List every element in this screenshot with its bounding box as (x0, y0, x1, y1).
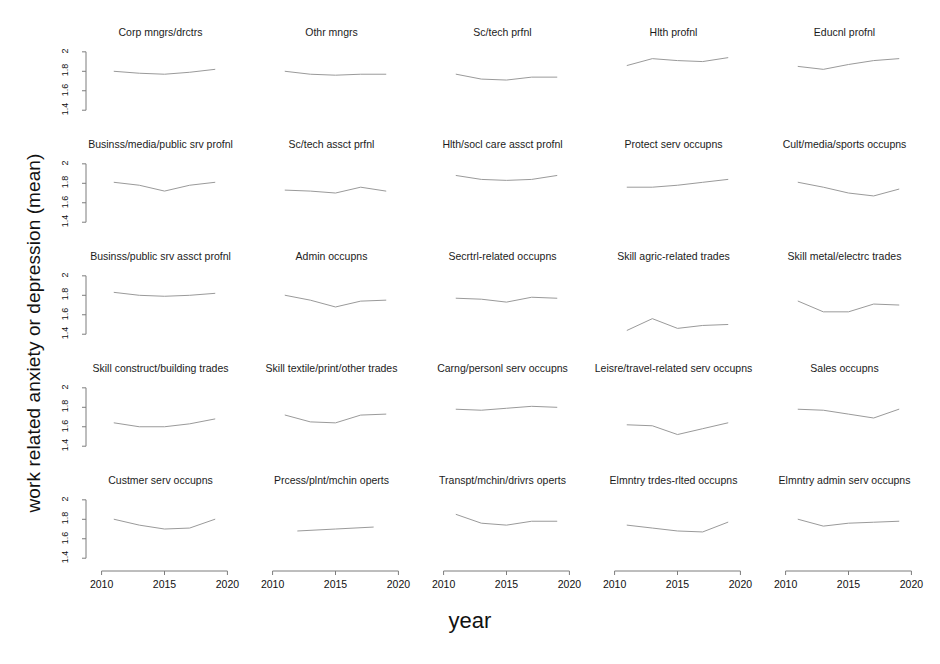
y-tick-label: 1.6 (60, 304, 70, 324)
panel-title: Sales occupns (759, 362, 930, 374)
panel-title: Custmer serv occupns (75, 474, 246, 486)
y-tick-label: 1.6 (60, 416, 70, 436)
panel-plot-area (588, 376, 759, 458)
panel-plot-area (246, 376, 417, 458)
data-line (627, 58, 728, 66)
chart-panel: Elmntry trdes-rlted occupns201020152020 (588, 474, 759, 586)
data-line (798, 519, 899, 526)
x-tick-label: 2015 (666, 578, 689, 590)
x-tick-label: 2020 (216, 578, 239, 590)
panel-title: Elmntry admin serv occupns (759, 474, 930, 486)
y-axis (82, 164, 86, 222)
y-tick-label: 1.4 (60, 211, 70, 231)
data-line (114, 69, 215, 74)
y-tick-label: 1.8 (60, 396, 70, 416)
y-tick-labels: 1.41.61.82 (59, 152, 73, 234)
x-tick-labels: 201020152020 (588, 578, 759, 594)
panel-plot-area (417, 264, 588, 346)
chart-panel: Educnl profnl (759, 26, 930, 138)
panel-plot-area (75, 152, 246, 234)
panel-title: Sc/tech prfnl (417, 26, 588, 38)
panel-plot-area (588, 40, 759, 122)
y-tick-label: 2 (60, 377, 70, 397)
data-line (285, 295, 386, 307)
chart-panel: Carng/personl serv occupns (417, 362, 588, 474)
data-line (627, 319, 728, 331)
x-axis-title: year (0, 608, 940, 634)
y-tick-label: 1.4 (60, 547, 70, 567)
y-tick-label: 1.4 (60, 435, 70, 455)
panel-title: Corp mngrs/drctrs (75, 26, 246, 38)
chart-panel: Skill metal/electrc trades (759, 250, 930, 362)
panel-grid: Corp mngrs/drctrs1.41.61.82Othr mngrsSc/… (75, 26, 930, 586)
chart-panel: Sales occupns (759, 362, 930, 474)
data-line (285, 414, 386, 423)
x-axis (273, 571, 399, 575)
data-line (456, 74, 557, 80)
chart-panel: Elmntry admin serv occupns201020152020 (759, 474, 930, 586)
chart-panel: Skill textile/print/other trades (246, 362, 417, 474)
panel-title: Leisre/travel-related serv occupns (588, 362, 759, 374)
panel-plot-area (759, 152, 930, 234)
y-tick-label: 1.8 (60, 60, 70, 80)
chart-panel: Sc/tech prfnl (417, 26, 588, 138)
data-line (114, 419, 215, 427)
chart-panel: Othr mngrs (246, 26, 417, 138)
panel-title: Skill agric-related trades (588, 250, 759, 262)
panel-title: Secrtrl-related occupns (417, 250, 588, 262)
data-line (798, 409, 899, 418)
chart-panel: Skill construct/building trades1.41.61.8… (75, 362, 246, 474)
x-tick-labels: 201020152020 (759, 578, 930, 594)
panel-title: Skill metal/electrc trades (759, 250, 930, 262)
data-line (798, 301, 899, 312)
data-line (114, 519, 215, 529)
panel-plot-area (417, 376, 588, 458)
x-axis (615, 571, 741, 575)
x-axis (444, 571, 570, 575)
y-tick-label: 2 (60, 489, 70, 509)
chart-panel: Corp mngrs/drctrs1.41.61.82 (75, 26, 246, 138)
y-tick-labels: 1.41.61.82 (59, 264, 73, 346)
panel-plot-area (246, 152, 417, 234)
y-axis (82, 276, 86, 334)
y-tick-label: 1.8 (60, 508, 70, 528)
chart-panel: Transpt/mchin/drivrs operts201020152020 (417, 474, 588, 586)
y-axis-title: work related anxiety or depression (mean… (23, 83, 45, 583)
chart-panel: Hlth/socl care assct profnl (417, 138, 588, 250)
x-tick-label: 2010 (90, 578, 113, 590)
chart-figure: work related anxiety or depression (mean… (0, 0, 940, 664)
panel-plot-area (588, 152, 759, 234)
chart-panel: Businss/public srv assct profnl1.41.61.8… (75, 250, 246, 362)
x-tick-labels: 201020152020 (417, 578, 588, 594)
chart-panel: Hlth profnl (588, 26, 759, 138)
chart-panel: Leisre/travel-related serv occupns (588, 362, 759, 474)
y-tick-label: 1.4 (60, 99, 70, 119)
data-line (627, 179, 728, 187)
y-tick-label: 1.6 (60, 80, 70, 100)
panel-title: Sc/tech assct prfnl (246, 138, 417, 150)
chart-panel: Businss/media/public srv profnl1.41.61.8… (75, 138, 246, 250)
x-tick-label: 2015 (495, 578, 518, 590)
panel-title: Educnl profnl (759, 26, 930, 38)
data-line (456, 176, 557, 181)
data-line (298, 527, 374, 531)
x-axis (102, 571, 228, 575)
y-tick-labels: 1.41.61.82 (59, 376, 73, 458)
data-line (285, 71, 386, 75)
y-axis (82, 388, 86, 446)
panel-title: Othr mngrs (246, 26, 417, 38)
y-tick-label: 2 (60, 41, 70, 61)
panel-plot-area (417, 152, 588, 234)
y-tick-label: 2 (60, 153, 70, 173)
x-tick-label: 2015 (153, 578, 176, 590)
x-tick-label: 2020 (729, 578, 752, 590)
panel-plot-area (588, 264, 759, 346)
panel-title: Admin occupns (246, 250, 417, 262)
panel-plot-area (246, 264, 417, 346)
panel-title: Cult/media/sports occupns (759, 138, 930, 150)
panel-plot-area (246, 40, 417, 122)
chart-panel: Prcess/plnt/mchin operts201020152020 (246, 474, 417, 586)
y-tick-label: 1.6 (60, 528, 70, 548)
chart-panel: Skill agric-related trades (588, 250, 759, 362)
data-line (114, 182, 215, 191)
